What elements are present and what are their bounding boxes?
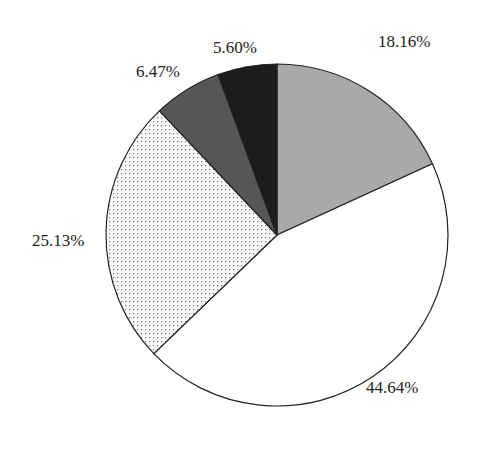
slice-label-5-60: 5.60% <box>213 38 257 58</box>
slice-label-6-47: 6.47% <box>136 62 180 82</box>
slice-label-25-13: 25.13% <box>32 231 84 251</box>
slice-label-44-64: 44.64% <box>366 378 418 398</box>
slice-label-18-16: 18.16% <box>378 32 430 52</box>
